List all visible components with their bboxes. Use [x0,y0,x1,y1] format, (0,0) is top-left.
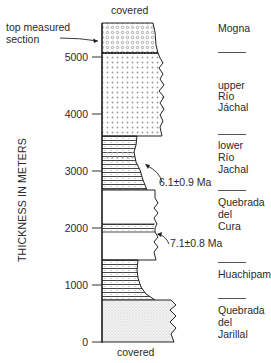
age-label-6-1: 6.1±0.9 Ma [159,176,211,188]
formation-label-line: lower [218,140,243,152]
covered-bottom-label: covered [117,346,154,358]
age-arrow-7-1 [157,232,169,244]
formation-separator [218,298,246,299]
formation-huachipampa: Huachipampa [218,269,271,281]
formation-separator [218,134,246,135]
formation-label-line: del [218,317,232,329]
formation-label-line: Río [218,152,234,164]
formation-separator [218,52,246,53]
top-measured-section-label-line2: section [6,33,39,45]
unit-quebrada-del-jarillal [102,300,176,342]
y-axis-ticks [92,57,102,342]
top-measured-section-arrow [60,38,98,43]
top-measured-section-label-line1: top measured [6,21,70,33]
formation-mogna: Mogna [218,23,250,35]
tick-label-1000: 1000 [48,279,88,291]
formation-label-line: Jachal [218,164,248,176]
formation-separator [218,262,246,263]
tick-label-0: 0 [48,336,88,348]
unit-mogna [102,23,158,53]
y-axis-title: THICKNESS IN METERS [16,138,28,262]
covered-top-label: covered [111,4,148,16]
tick-label-5000: 5000 [48,51,88,63]
unit-huachipampa [102,260,155,300]
formation-label-line: Cura [218,221,241,233]
tick-label-3000: 3000 [48,165,88,177]
formation-separator [218,190,246,191]
unit-quebrada-del-cura [102,190,158,260]
unit-upper-rio-jachal [102,53,164,136]
formation-label-line: del [218,209,232,221]
tick-label-2000: 2000 [48,222,88,234]
formation-label-line: Jáchal [218,102,248,114]
unit-lower-rio-jachal [102,136,147,190]
formation-label-line: Quebrada [218,305,265,317]
formation-label-line: Jarillal [218,329,248,341]
formation-label-line: Quebrada [218,197,265,209]
age-label-7-1: 7.1±0.8 Ma [170,237,222,249]
tick-label-4000: 4000 [48,108,88,120]
